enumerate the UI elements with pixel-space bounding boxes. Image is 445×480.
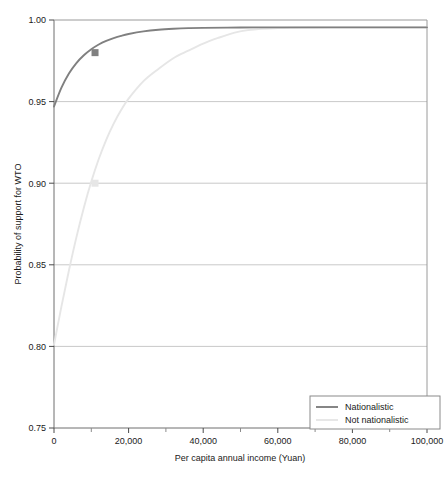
x-tick-label: 100,000 [411,436,444,446]
legend-label-not-nationalistic: Not nationalistic [345,415,409,425]
x-tick-label: 0 [51,436,56,446]
y-axis-title: Probability of support for WTO [13,164,23,285]
x-tick-label: 40,000 [189,436,217,446]
series-marker-nationalistic [92,49,99,56]
y-tick-label: 1.00 [28,15,46,25]
chart-figure: 0.750.800.850.900.951.00 020,00040,00060… [0,0,445,480]
probability-of-support-line-chart: 0.750.800.850.900.951.00 020,00040,00060… [0,0,445,480]
x-tick-label: 80,000 [339,436,367,446]
chart-legend[interactable]: NationalisticNot nationalistic [310,396,440,429]
x-tick-label: 60,000 [264,436,292,446]
y-tick-label: 0.80 [28,342,46,352]
y-tick-label: 0.75 [28,423,46,433]
y-tick-label: 0.90 [28,179,46,189]
y-tick-label: 0.95 [28,97,46,107]
series-marker-not-nationalistic [92,180,99,187]
legend-label-nationalistic: Nationalistic [345,402,394,412]
y-tick-label: 0.85 [28,260,46,270]
x-tick-label: 20,000 [115,436,143,446]
x-axis-title: Per capita annual income (Yuan) [175,453,306,463]
